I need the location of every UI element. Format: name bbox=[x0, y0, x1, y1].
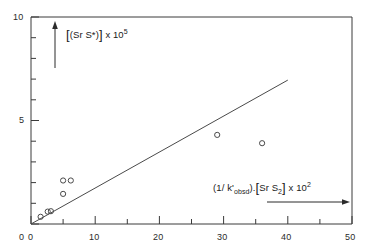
x-tick-label-30: 30 bbox=[217, 232, 227, 242]
y-tick-label-0: 0 bbox=[19, 232, 24, 242]
y-label-multiplier: x 10 bbox=[103, 29, 124, 40]
y-tick-label-5: 5 bbox=[19, 115, 24, 125]
fit-line bbox=[31, 80, 288, 224]
scatter-plot-figure: 10 5 0 0 10 20 30 40 50 [(Sr S*)] x 105 … bbox=[0, 0, 383, 251]
x-label-species: Sr S bbox=[259, 182, 278, 193]
x-tick-label-0: 0 bbox=[28, 232, 33, 242]
y-axis-label: [(Sr S*)] x 105 bbox=[66, 27, 128, 42]
x-label-multiplier: x 10 bbox=[286, 182, 307, 193]
x-tick-label-40: 40 bbox=[281, 232, 291, 242]
data-point bbox=[61, 178, 66, 183]
x-label-prefix: (1/ k' bbox=[213, 182, 234, 193]
x-label-exponent: 2 bbox=[307, 181, 311, 188]
y-axis-direction-arrow bbox=[52, 21, 58, 68]
y-axis-major-ticks bbox=[31, 17, 39, 224]
x-tick-label-50: 50 bbox=[345, 232, 355, 242]
x-label-subscript: obsd bbox=[234, 188, 250, 195]
data-point bbox=[61, 191, 66, 196]
x-tick-label-20: 20 bbox=[153, 232, 163, 242]
y-label-exponent: 5 bbox=[124, 28, 128, 35]
x-axis-direction-arrow bbox=[267, 199, 350, 205]
plot-canvas bbox=[0, 0, 383, 251]
data-point bbox=[215, 132, 220, 137]
x-axis-minor-ticks bbox=[63, 219, 320, 224]
y-tick-label-10: 10 bbox=[13, 12, 23, 22]
data-point bbox=[260, 141, 265, 146]
x-tick-label-10: 10 bbox=[89, 232, 99, 242]
y-label-species: Sr S* bbox=[73, 29, 96, 40]
data-point bbox=[68, 178, 73, 183]
x-axis-label: (1/ k'obsd).[Sr S2] x 102 bbox=[213, 180, 311, 195]
data-points bbox=[38, 132, 265, 219]
